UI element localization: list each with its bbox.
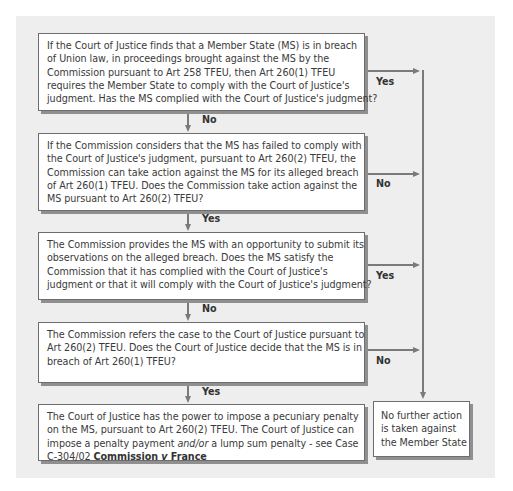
- label-b3-no: No: [202, 303, 217, 314]
- arrow-right-1: [368, 70, 414, 72]
- box-text-line: No further action: [381, 409, 469, 422]
- box-text-line: The Court of Justice has the power to im…: [47, 410, 364, 423]
- arrow-right-2: [368, 173, 414, 175]
- box-no-further-action: No further action is taken against the M…: [373, 401, 470, 457]
- box-text-line: Commission that it has complied with the…: [47, 265, 364, 278]
- arrowhead-down-icon: [185, 396, 191, 403]
- arrowhead-right-icon: [413, 262, 420, 268]
- box-text-line: of Art 260(1) TFEU. Does the Commission …: [47, 179, 364, 192]
- italic-andor: and/or: [178, 438, 209, 449]
- arrowhead-right-icon: [413, 347, 420, 353]
- box-text-line-3: impose a penalty payment and/or a lump s…: [47, 437, 364, 450]
- arrowhead-right-icon: [413, 68, 420, 74]
- label-b2-no: No: [376, 178, 391, 189]
- arrowhead-down-icon: [420, 392, 426, 399]
- case-number: C-304/02: [47, 451, 94, 462]
- box-text-line: observations on the alleged breach. Does…: [47, 251, 364, 264]
- box-text-line: If the Court of Justice finds that a Mem…: [47, 39, 364, 52]
- text-segment: a lump sum penalty - see Case: [208, 438, 358, 449]
- box-text-line: the Court of Justice's judgment, pursuan…: [47, 152, 364, 165]
- box-observations: The Commission provides the MS with an o…: [38, 232, 365, 300]
- arrowhead-down-icon: [185, 314, 191, 321]
- label-b1-yes: Yes: [376, 76, 394, 87]
- box-text-line: MS pursuant to Art 260(2) TFEU?: [47, 192, 364, 205]
- box-text-line: requires the Member State to comply with…: [47, 79, 364, 92]
- label-b3-yes: Yes: [376, 270, 394, 281]
- arrowhead-right-icon: [413, 171, 420, 177]
- box-text-line: judgment. Has the MS complied with the C…: [47, 92, 364, 105]
- box-text-line: judgment or that it will comply with the…: [47, 278, 364, 291]
- case-name-part1: Commission: [94, 451, 162, 462]
- box-text-line: If the Commission considers that the MS …: [47, 139, 364, 152]
- box-text-line: of Union law, in proceedings brought aga…: [47, 52, 364, 65]
- box-text-line: is taken against: [381, 422, 469, 435]
- box-text-line-4: C-304/02 Commission v France: [47, 450, 364, 463]
- box-text-line: on the MS, pursuant to Art 260(2) TFEU. …: [47, 423, 364, 436]
- arrowhead-down-icon: [185, 125, 191, 132]
- box-commission-action: If the Commission considers that the MS …: [38, 133, 365, 211]
- box-penalty: The Court of Justice has the power to im…: [38, 404, 365, 461]
- box-text-line: The Commission refers the case to the Co…: [47, 328, 364, 341]
- box-text-line: breach of Art 260(1) TFEU?: [47, 355, 364, 368]
- collector-line: [422, 70, 424, 393]
- box-text-line: Commission can take action against the M…: [47, 166, 364, 179]
- case-name-part2: France: [168, 451, 207, 462]
- label-b4-yes: Yes: [202, 386, 220, 397]
- box-text-line: Commission pursuant to Art 258 TFEU, the…: [47, 66, 364, 79]
- label-b4-no: No: [376, 355, 391, 366]
- box-complied-check: If the Court of Justice finds that a Mem…: [38, 33, 365, 111]
- text-segment: impose a penalty payment: [47, 438, 178, 449]
- box-text-line: the Member State: [381, 436, 469, 449]
- box-referral: The Commission refers the case to the Co…: [38, 322, 365, 383]
- box-text-line: Art 260(2) TFEU. Does the Court of Justi…: [47, 341, 364, 354]
- arrow-right-4: [368, 349, 414, 351]
- label-b2-yes: Yes: [202, 213, 220, 224]
- arrowhead-down-icon: [185, 224, 191, 231]
- box-text-line: The Commission provides the MS with an o…: [47, 238, 364, 251]
- label-b1-no: No: [202, 114, 217, 125]
- arrow-right-3: [368, 264, 414, 266]
